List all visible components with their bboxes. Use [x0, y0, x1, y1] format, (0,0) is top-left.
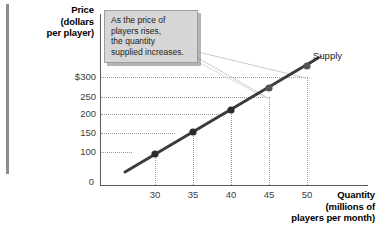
callout-line-3: the quantity [111, 36, 192, 47]
data-point-40-200 [227, 106, 234, 113]
data-point-30-100 [151, 150, 158, 157]
callout-annotation: As the price of players rises, the quant… [104, 10, 198, 63]
callout-line-2: players rises, [111, 26, 192, 37]
data-point-35-150 [189, 128, 196, 135]
callout-line-4: supplied increases. [111, 47, 192, 58]
supply-curve-label: Supply [313, 50, 342, 61]
data-point-45-250 [265, 84, 272, 91]
supply-curve-figure: Price (dollars per player) Quantity (mil… [0, 0, 379, 235]
data-point-50-300 [303, 62, 310, 69]
callout-line-1: As the price of [111, 15, 192, 26]
